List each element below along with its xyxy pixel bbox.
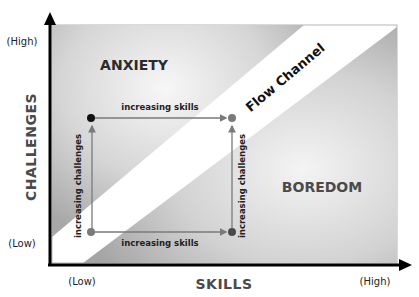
y-high-label: (High) <box>7 36 38 47</box>
y-axis-title: CHALLENGES <box>23 93 39 201</box>
x-high-label: (High) <box>360 276 391 287</box>
top-arrow-label: increasing skills <box>121 102 198 112</box>
diagram-canvas: increasing skills increasing skills incr… <box>0 0 419 297</box>
point-low-skill-low-challenge <box>87 228 95 236</box>
x-axis-title: SKILLS <box>195 276 252 292</box>
x-low-label: (Low) <box>68 276 96 287</box>
point-high-skill-high-challenge <box>228 114 236 122</box>
x-axis-arrowhead-icon <box>399 259 412 271</box>
boredom-label: BOREDOM <box>282 179 362 195</box>
anxiety-label: ANXIETY <box>100 57 169 73</box>
flow-diagram: increasing skills increasing skills incr… <box>0 0 419 297</box>
right-arrow-label: increasing challenges <box>237 134 247 238</box>
point-high-skill-low-challenge <box>228 228 236 236</box>
y-low-label: (Low) <box>8 238 36 249</box>
point-low-skill-high-challenge <box>87 114 95 122</box>
left-arrow-label: increasing challenges <box>73 134 83 238</box>
bottom-arrow-label: increasing skills <box>121 238 198 248</box>
y-axis-arrowhead-icon <box>44 12 56 25</box>
